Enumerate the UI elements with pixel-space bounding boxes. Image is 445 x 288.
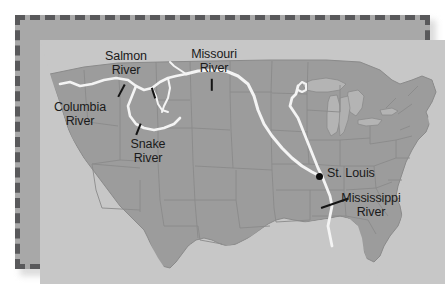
st-louis-city-dot <box>316 173 323 180</box>
label-st-louis: St. Louis <box>327 167 407 181</box>
missouri-leader-line <box>211 79 213 91</box>
label-snake-river: Snake River <box>116 138 180 165</box>
map-viewport: Salmon River Missouri River Columbia Riv… <box>40 40 445 284</box>
map-dashed-frame: Salmon River Missouri River Columbia Riv… <box>15 15 430 269</box>
label-salmon-river: Salmon River <box>88 50 164 77</box>
label-columbia-river: Columbia River <box>40 101 123 128</box>
label-missouri-river: Missouri River <box>174 48 254 75</box>
map-figure: Salmon River Missouri River Columbia Riv… <box>0 0 445 288</box>
label-mississippi-river: Mississippi River <box>323 192 419 219</box>
